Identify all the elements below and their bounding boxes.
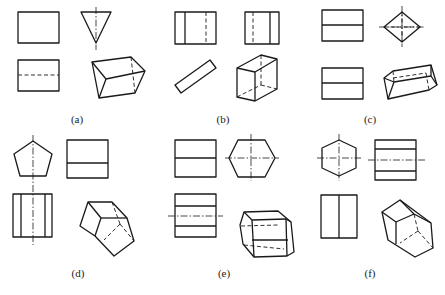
panel-b-drawing — [175, 12, 279, 101]
three-view-drawings — [0, 0, 445, 295]
panel-e-drawing — [168, 134, 294, 257]
panel-label-b: (b) — [217, 113, 230, 125]
panel-label-c: (c) — [364, 113, 376, 125]
panel-label-a: (a) — [71, 113, 83, 125]
panel-label-e: (e) — [218, 267, 230, 279]
panel-d-drawing — [13, 135, 134, 256]
panel-label-f: (f) — [365, 267, 376, 279]
panel-label-d: (d) — [72, 267, 85, 279]
panel-a-drawing — [18, 7, 145, 98]
panel-f-drawing — [317, 134, 433, 257]
panel-c-drawing — [322, 6, 437, 99]
